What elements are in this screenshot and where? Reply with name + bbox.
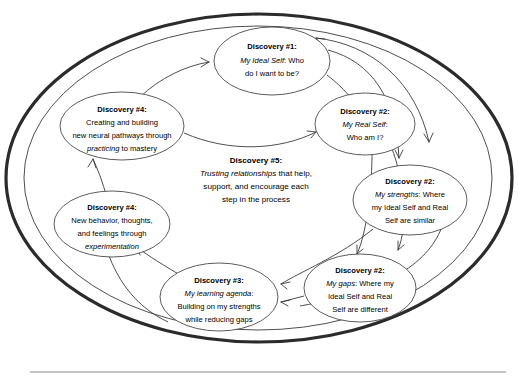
node-discovery-4-experimentation-line-1: New behavior, thoughts,: [71, 216, 152, 225]
node-discovery-2-strengths[interactable]: Discovery #2: My strengths: Where my Ide…: [353, 165, 467, 235]
node-discovery-5-line-2: support, and encourage each: [203, 182, 308, 191]
node-discovery-3-line-1-em: My learning agenda: [185, 289, 252, 298]
node-discovery-4-mastery[interactable]: Discovery #4: Creating and building new …: [60, 92, 184, 160]
cycle-diagram-root: Discovery #1: My Ideal Self: Who do I wa…: [0, 0, 520, 379]
node-discovery-4-mastery-line-1: Creating and building: [86, 118, 158, 127]
node-discovery-1-title: Discovery #1:: [247, 42, 296, 51]
node-discovery-2-real-self-line-2: Who am I?: [347, 133, 384, 142]
node-discovery-3-title: Discovery #3:: [194, 276, 243, 285]
node-discovery-2-real-self-line-1: My Real Self:: [342, 120, 387, 129]
node-discovery-5-line-1-rest: that help,: [276, 169, 312, 178]
node-discovery-4-experimentation-line-3: experimentation: [85, 242, 139, 251]
node-discovery-1-line-1-rest: : Who: [284, 56, 304, 65]
arrowhead-ideal-to-strengths: [424, 133, 433, 142]
node-discovery-2-real-self-line-1-em: My Real Self: [342, 120, 386, 129]
node-discovery-2-strengths-line-1-rest: : Where: [418, 190, 445, 199]
node-discovery-1[interactable]: Discovery #1: My Ideal Self: Who do I wa…: [214, 27, 330, 95]
node-discovery-4-experimentation-title: Discovery #4:: [87, 203, 136, 212]
node-discovery-2-gaps-line-1-em: My gaps: [326, 279, 355, 288]
node-discovery-2-strengths-line-1: My strengths: Where: [375, 190, 445, 199]
diagram-canvas: Discovery #1: My Ideal Self: Who do I wa…: [0, 0, 520, 379]
node-discovery-4-experimentation[interactable]: Discovery #4: New behavior, thoughts, an…: [54, 191, 170, 257]
node-discovery-4-mastery-line-3-em: practicing: [86, 144, 120, 153]
arrow-mastery-to-ideal: [140, 62, 209, 97]
node-discovery-2-strengths-line-2: my Ideal Self and Real: [372, 203, 449, 212]
node-discovery-3-line-3: while reducing gaps: [184, 315, 252, 324]
node-discovery-2-gaps-title: Discovery #2:: [335, 266, 384, 275]
node-discovery-2-gaps-line-1: My gaps: Where my: [326, 279, 394, 288]
node-discovery-2-real-self-title: Discovery #2:: [340, 107, 389, 116]
node-discovery-5-title: Discovery #5:: [230, 156, 283, 165]
node-discovery-5-line-1: Trusting relationships that help,: [200, 169, 312, 178]
node-discovery-1-line-2: do I want to be?: [245, 69, 299, 78]
node-discovery-2-strengths-line-3: Self are similar: [385, 216, 436, 225]
node-discovery-1-line-1: My Ideal Self: Who: [240, 56, 304, 65]
node-discovery-2-real-self[interactable]: Discovery #2: My Real Self: Who am I?: [315, 93, 415, 155]
node-discovery-3-line-2: Building on my strengths: [177, 302, 260, 311]
node-discovery-2-real-self-line-1-rest: :: [385, 120, 387, 129]
arrowhead-experimentation-to-mastery: [88, 159, 96, 168]
node-discovery-4-mastery-title: Discovery #4:: [97, 105, 146, 114]
node-discovery-4-mastery-line-2: new neural pathways through: [72, 131, 171, 140]
node-discovery-5-line-3: step in the process: [222, 195, 290, 204]
node-discovery-3-line-1: My learning agenda:: [185, 289, 254, 298]
node-discovery-2-gaps[interactable]: Discovery #2: My gaps: Where my Ideal Se…: [304, 254, 416, 322]
node-discovery-2-gaps-line-1-rest: : Where my: [355, 279, 394, 288]
node-discovery-2-gaps-line-2: Ideal Self and Real: [328, 292, 392, 301]
node-discovery-5-line-1-em: Trusting relationships: [200, 169, 276, 178]
node-discovery-4-experimentation-line-2: and feelings through: [78, 229, 147, 238]
arrow-mastery-sweep-to-real: [184, 132, 316, 147]
node-discovery-2-strengths-title: Discovery #2:: [385, 177, 434, 186]
node-discovery-4-mastery-line-3-rest: to mastery: [119, 144, 157, 153]
node-discovery-5-center[interactable]: Discovery #5: Trusting relationships tha…: [200, 156, 312, 204]
node-discovery-2-strengths-line-1-em: My strengths: [375, 190, 419, 199]
node-discovery-3[interactable]: Discovery #3: My learning agenda: Buildi…: [160, 263, 278, 331]
arrowhead-gaps-to-learning: [281, 300, 290, 306]
node-discovery-1-line-1-em: My Ideal Self: [240, 56, 285, 65]
node-discovery-3-line-1-rest: :: [251, 289, 253, 298]
node-discovery-2-gaps-line-3: Self are different: [332, 305, 388, 314]
node-layer: Discovery #1: My Ideal Self: Who do I wa…: [54, 27, 467, 331]
node-discovery-4-mastery-line-3: practicing to mastery: [86, 144, 157, 153]
